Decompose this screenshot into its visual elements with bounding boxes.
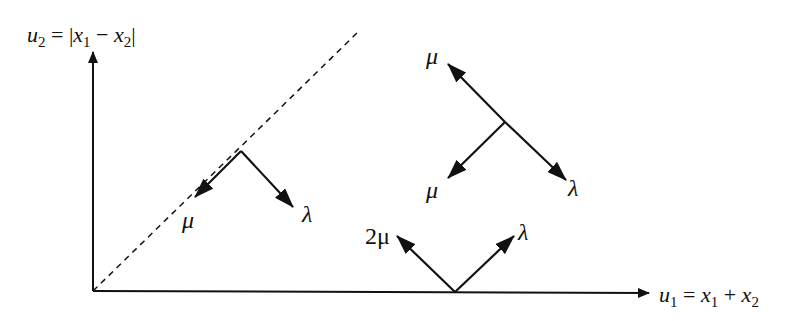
- interior-lambda-arrow: [505, 122, 566, 180]
- x-axis-x1-sub: 1: [711, 294, 719, 310]
- y-axis-sub: 2: [38, 34, 46, 50]
- y-axis-x2-sub: 2: [124, 34, 132, 50]
- x-axis-eq: =: [678, 282, 701, 307]
- x-axis-sub: 1: [670, 294, 678, 310]
- diagonal-mu-arrow: [195, 151, 241, 197]
- diagonal-dashed-line: [93, 32, 358, 291]
- y-axis-minus: −: [91, 22, 114, 47]
- x-axis-x1: x: [701, 282, 711, 307]
- x-axis-x2-sub: 2: [751, 294, 759, 310]
- diagonal-mu-label: μ: [182, 208, 194, 232]
- boundary-2mu-label: 2μ: [365, 224, 390, 248]
- y-axis-label: u2 = |x1 − x2|: [27, 24, 136, 46]
- y-axis-x1-sub: 1: [83, 34, 91, 50]
- interior-mu-up-label: μ: [426, 44, 438, 68]
- boundary-2mu-arrow: [397, 236, 455, 292]
- interior-mu-down-label: μ: [426, 178, 438, 202]
- diagonal-lambda-arrow: [241, 151, 293, 207]
- x-axis-var: u: [659, 282, 670, 307]
- diagonal-lambda-label: λ: [302, 202, 312, 226]
- interior-lambda-label: λ: [568, 176, 578, 200]
- x-axis-plus: +: [718, 282, 741, 307]
- x-axis-label: u1 = x1 + x2: [659, 284, 759, 306]
- x-axis-x2: x: [742, 282, 752, 307]
- interior-mu-down-arrow: [448, 122, 505, 178]
- boundary-2mu-text: 2μ: [365, 223, 390, 249]
- boundary-lambda-label: λ: [518, 220, 528, 244]
- y-axis-x1: x: [73, 22, 83, 47]
- diagram-canvas: [0, 0, 806, 321]
- boundary-lambda-arrow: [455, 236, 514, 292]
- y-axis-x2: x: [114, 22, 124, 47]
- interior-mu-up-arrow: [448, 64, 505, 122]
- y-axis-eq: = |: [46, 22, 74, 47]
- x-axis: [93, 291, 649, 293]
- y-axis-close: |: [131, 22, 135, 47]
- y-axis-var: u: [27, 22, 38, 47]
